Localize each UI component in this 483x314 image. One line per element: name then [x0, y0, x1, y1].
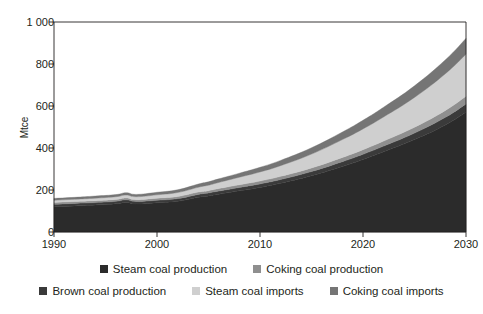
plot-area: Mtce 02004006008001 000 1990200020102020…	[0, 14, 483, 242]
legend-swatch-icon	[253, 265, 261, 273]
legend-item-brown-coal-production[interactable]: Brown coal production	[39, 285, 166, 298]
x-axis-ticks	[54, 232, 466, 237]
legend-label: Coking coal imports	[343, 285, 444, 298]
legend-label: Steam coal imports	[205, 285, 303, 298]
legend-item-coking-coal-imports[interactable]: Coking coal imports	[330, 285, 444, 298]
chart-figure: 1990-2030 Mtce 02004006008001 000 199020…	[0, 0, 483, 314]
legend-item-steam-coal-imports[interactable]: Steam coal imports	[192, 285, 303, 298]
legend-swatch-icon	[100, 265, 108, 273]
area-series-group	[54, 38, 466, 232]
legend-row-top: Steam coal productionCoking coal product…	[0, 258, 483, 280]
legend-item-coking-coal-production[interactable]: Coking coal production	[253, 263, 383, 276]
legend-label: Steam coal production	[113, 263, 227, 276]
x-tick-label-1990: 1990	[24, 238, 84, 250]
chart-legend: Steam coal productionCoking coal product…	[0, 258, 483, 302]
x-tick-label-2020: 2020	[333, 238, 393, 250]
chart-title: 1990-2030	[0, 0, 483, 2]
legend-label: Coking coal production	[266, 263, 383, 276]
x-tick-label-2000: 2000	[127, 238, 187, 250]
legend-item-steam-coal-production[interactable]: Steam coal production	[100, 263, 227, 276]
legend-row-bottom: Brown coal productionSteam coal importsC…	[0, 280, 483, 302]
legend-swatch-icon	[192, 287, 200, 295]
legend-swatch-icon	[330, 287, 338, 295]
legend-label: Brown coal production	[52, 285, 166, 298]
x-tick-label-2010: 2010	[230, 238, 290, 250]
legend-swatch-icon	[39, 287, 47, 295]
x-tick-label-2030: 2030	[436, 238, 483, 250]
stacked-area-plot	[0, 14, 483, 242]
